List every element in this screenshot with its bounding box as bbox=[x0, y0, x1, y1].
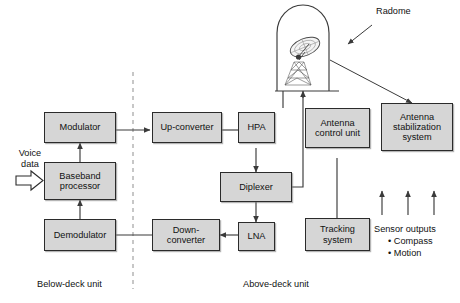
sensor-outputs-label: Sensor outputs bbox=[374, 224, 436, 235]
block-baseband-processor-label: Baseband processor bbox=[45, 171, 115, 192]
sensor-output-item-motion: • Motion bbox=[388, 248, 421, 259]
diagram-canvas: Modulator Baseband processor Demodulator… bbox=[0, 0, 460, 303]
block-antenna-stabilization-system-label: Antenna stabilization system bbox=[382, 112, 452, 143]
sensor-output-item-compass: • Compass bbox=[388, 236, 433, 247]
block-antenna-control-unit-label: Antenna control unit bbox=[306, 118, 369, 139]
radome-label: Radome bbox=[376, 6, 411, 17]
block-up-converter-label: Up-converter bbox=[158, 122, 215, 132]
block-lna-label: LNA bbox=[246, 231, 268, 241]
radome-illustration bbox=[277, 5, 329, 91]
block-tracking-system-label: Tracking system bbox=[306, 224, 369, 245]
block-demodulator-label: Demodulator bbox=[52, 230, 109, 240]
block-modulator-label: Modulator bbox=[58, 122, 103, 132]
block-baseband-processor[interactable]: Baseband processor bbox=[44, 162, 116, 200]
block-hpa-label: HPA bbox=[245, 122, 267, 132]
radome-callout bbox=[348, 25, 372, 44]
below-deck-unit-label: Below-deck unit bbox=[37, 279, 102, 290]
block-diplexer[interactable]: Diplexer bbox=[220, 172, 292, 202]
block-down-converter-label: Down- converter bbox=[153, 225, 219, 246]
block-down-converter[interactable]: Down- converter bbox=[152, 219, 220, 251]
block-modulator[interactable]: Modulator bbox=[44, 112, 116, 143]
block-hpa[interactable]: HPA bbox=[238, 112, 275, 143]
above-deck-unit-label: Above-deck unit bbox=[243, 279, 309, 290]
block-antenna-stabilization-system[interactable]: Antenna stabilization system bbox=[381, 103, 453, 151]
block-demodulator[interactable]: Demodulator bbox=[44, 219, 116, 251]
block-up-converter[interactable]: Up-converter bbox=[152, 112, 222, 143]
voice-data-label: Voice data bbox=[8, 148, 52, 170]
block-antenna-control-unit[interactable]: Antenna control unit bbox=[305, 108, 370, 148]
voice-data-arrow bbox=[16, 171, 43, 190]
block-diplexer-label: Diplexer bbox=[237, 182, 275, 192]
block-lna[interactable]: LNA bbox=[238, 222, 275, 251]
block-tracking-system[interactable]: Tracking system bbox=[305, 218, 370, 251]
stabilization-callout bbox=[330, 60, 412, 103]
